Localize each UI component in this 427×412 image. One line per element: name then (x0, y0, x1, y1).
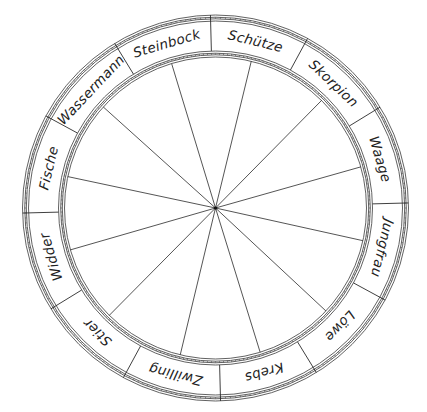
degree-tick (74, 270, 75, 271)
degree-tick (99, 57, 100, 58)
degree-tick (377, 307, 378, 308)
degree-tick (115, 90, 116, 91)
degree-tick (103, 101, 104, 102)
sign-label-2: Skorpion (306, 56, 362, 110)
degree-tick (274, 65, 275, 66)
degree-tick (386, 289, 387, 290)
degree-tick (353, 338, 354, 339)
degree-tick (95, 60, 96, 61)
degree-tick (331, 358, 332, 359)
degree-tick (366, 323, 367, 324)
degree-tick (50, 113, 51, 114)
degree-tick (344, 291, 345, 292)
degree-tick (112, 367, 113, 368)
house-spoke (103, 107, 215, 208)
degree-tick (369, 96, 370, 97)
degree-tick (124, 40, 125, 41)
house-spoke (216, 100, 322, 208)
degree-tick (323, 364, 324, 365)
degree-tick (112, 93, 113, 94)
degree-tick (315, 90, 316, 91)
degree-tick (103, 54, 104, 55)
degree-tick (50, 303, 51, 304)
degree-tick (350, 281, 351, 282)
degree-tick (129, 38, 130, 39)
degree-tick (302, 80, 303, 81)
sign-divider (298, 342, 317, 373)
degree-tick (354, 141, 355, 142)
degree-tick (142, 32, 143, 33)
degree-tick (43, 126, 44, 127)
degree-tick (39, 135, 40, 136)
degree-tick (335, 111, 336, 112)
degree-tick (339, 298, 340, 299)
sign-label-4: Jungfrau (368, 215, 398, 279)
degree-tick (356, 335, 357, 336)
degree-tick (88, 120, 89, 121)
degree-tick (120, 43, 121, 44)
sign-divider (220, 365, 221, 401)
degree-tick (348, 131, 349, 132)
degree-tick (93, 114, 94, 115)
degree-tick (142, 72, 143, 73)
degree-tick (116, 369, 117, 370)
degree-tick (309, 330, 310, 331)
degree-tick (331, 57, 332, 58)
degree-tick (289, 72, 290, 73)
degree-tick (131, 336, 132, 337)
degree-tick (118, 327, 119, 328)
degree-tick (149, 68, 150, 69)
degree-tick (299, 336, 300, 337)
degree-tick (332, 107, 333, 108)
degree-tick (72, 149, 73, 150)
degree-tick (312, 327, 313, 328)
degree-tick (296, 76, 297, 77)
degree-tick (67, 88, 68, 89)
degree-tick (388, 285, 389, 286)
degree-tick (296, 339, 297, 340)
degree-tick (45, 121, 46, 122)
degree-tick (388, 130, 389, 131)
degree-tick (64, 92, 65, 93)
house-spoke (216, 208, 326, 311)
degree-tick (138, 341, 139, 342)
degree-tick (74, 145, 75, 146)
sign-label-5: Löwe (322, 308, 359, 345)
degree-tick (145, 70, 146, 71)
degree-tick (84, 127, 85, 128)
degree-tick (88, 295, 89, 296)
degree-tick (371, 100, 372, 101)
house-spoke (216, 208, 261, 352)
degree-tick (327, 313, 328, 314)
degree-tick (384, 121, 385, 122)
sign-divider (353, 283, 385, 300)
degree-tick (332, 307, 333, 308)
degree-tick (121, 85, 122, 86)
house-spoke (70, 208, 215, 250)
degree-tick (309, 85, 310, 86)
degree-tick (55, 104, 56, 105)
degree-tick (323, 51, 324, 52)
degree-tick (329, 104, 330, 105)
degree-tick (319, 367, 320, 368)
sign-divider (290, 38, 307, 70)
house-spoke (68, 177, 216, 208)
degree-tick (338, 352, 339, 353)
sign-label-6: Krebs (243, 360, 286, 387)
degree-tick (78, 278, 79, 279)
sign-divider (123, 346, 140, 378)
degree-tick (98, 307, 99, 308)
degree-tick (363, 327, 364, 328)
degree-tick (327, 101, 328, 102)
degree-tick (118, 88, 119, 89)
degree-tick (90, 117, 91, 118)
degree-tick (369, 319, 370, 320)
degree-tick (142, 383, 143, 384)
degree-tick (106, 316, 107, 317)
degree-tick (355, 270, 356, 271)
degree-tick (76, 274, 77, 275)
degree-tick (39, 280, 40, 281)
degree-tick (112, 322, 113, 323)
degree-tick (374, 104, 375, 105)
degree-tick (142, 343, 143, 344)
